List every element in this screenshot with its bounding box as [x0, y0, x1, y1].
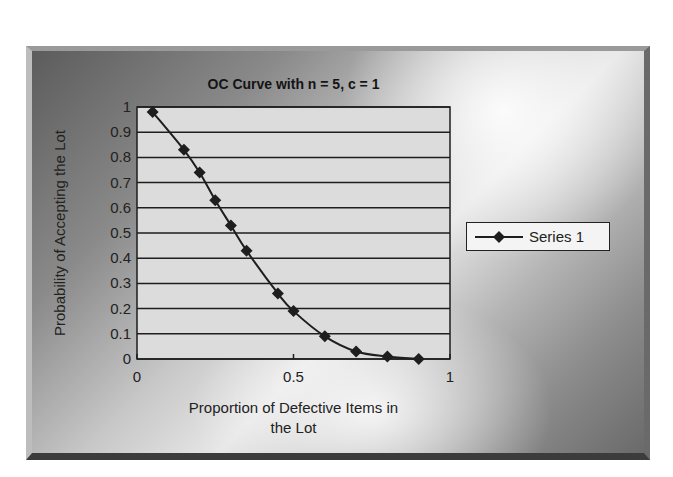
y-tick-label: 0.3: [91, 275, 131, 291]
x-axis-label: Proportion of Defective Items in the Lot: [137, 398, 450, 438]
x-tick-label: 0.5: [274, 369, 314, 385]
y-tick-label: 0.9: [91, 124, 131, 140]
y-tick-label: 0.2: [91, 301, 131, 317]
legend-label: Series 1: [529, 228, 584, 245]
y-tick-label: 0.5: [91, 225, 131, 241]
y-axis-label: Probability of Accepting the Lot: [51, 130, 68, 336]
x-axis-label-line2: the Lot: [137, 418, 450, 438]
y-tick-label: 0.7: [91, 175, 131, 191]
legend: Series 1: [466, 222, 610, 251]
y-tick-label: 0.4: [91, 250, 131, 266]
y-tick-label: 0.6: [91, 200, 131, 216]
x-tick-label: 1: [430, 369, 470, 385]
y-tick-label: 1: [91, 99, 131, 115]
y-tick-label: 0.1: [91, 326, 131, 342]
y-tick-label: 0: [91, 351, 131, 367]
diamond-marker-icon: [475, 231, 523, 243]
x-tick-label: 0: [117, 369, 157, 385]
y-tick-label: 0.8: [91, 149, 131, 165]
x-axis-label-line1: Proportion of Defective Items in: [137, 398, 450, 418]
